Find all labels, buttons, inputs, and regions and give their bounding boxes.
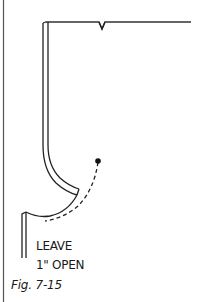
annotation-leave: LEAVE: [36, 240, 72, 252]
fold-dashed-line: [45, 162, 98, 221]
pivot-dot-icon: [95, 158, 101, 164]
pattern-diagram: LEAVE 1" OPEN Fig. 7-15: [0, 0, 205, 302]
notch-marker-icon: [99, 22, 105, 29]
edge-join: [77, 189, 79, 195]
edge-inner-line: [48, 22, 79, 189]
annotation-open: 1" OPEN: [36, 259, 84, 271]
curve-lower-line: [26, 195, 77, 217]
top-edge-line: [43, 22, 191, 29]
figure-caption: Fig. 7-15: [11, 279, 62, 291]
diagram-drawing: [0, 0, 205, 302]
